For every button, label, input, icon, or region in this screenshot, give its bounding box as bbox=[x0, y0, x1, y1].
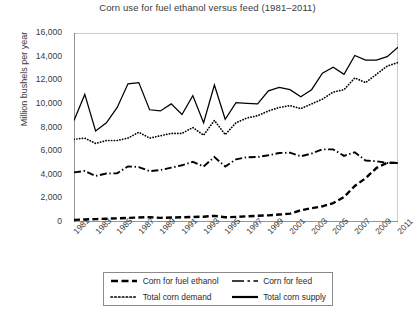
series-lines bbox=[74, 47, 398, 220]
chart-figure: Corn use for fuel ethanol versus feed (1… bbox=[0, 0, 415, 314]
legend-swatch-corn-for-feed bbox=[225, 273, 261, 289]
chart-legend: Corn for fuel ethanol Corn for feed Tota… bbox=[103, 272, 333, 306]
axis-frame bbox=[74, 33, 398, 222]
legend-label-total-corn-demand: Total corn demand bbox=[140, 289, 225, 305]
plot-svg bbox=[74, 33, 398, 222]
legend-swatch-total-corn-demand bbox=[104, 289, 140, 305]
plot-area bbox=[74, 33, 398, 222]
legend-label-total-corn-supply: Total corn supply bbox=[260, 289, 332, 305]
legend-swatch-total-corn-supply bbox=[225, 289, 261, 305]
series-line bbox=[74, 149, 398, 176]
legend-label-corn-for-feed: Corn for feed bbox=[260, 273, 332, 289]
series-line bbox=[74, 47, 398, 131]
series-line bbox=[74, 163, 398, 220]
legend-label-corn-for-fuel-ethanol: Corn for fuel ethanol bbox=[140, 273, 225, 289]
legend-swatch-corn-for-fuel-ethanol bbox=[104, 273, 140, 289]
